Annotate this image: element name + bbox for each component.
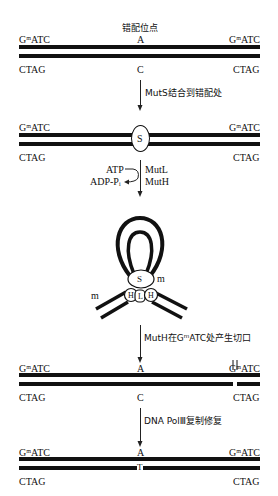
- dna-strand-bottom-right: [237, 382, 260, 386]
- stage4-bot-left: CTAG: [19, 392, 45, 403]
- step3-label: MutH在GᵐATC处产生切口: [144, 333, 251, 344]
- arrow-step4: [140, 408, 141, 443]
- loop-mutl-label: L: [138, 291, 143, 302]
- arrow-step3: [140, 325, 141, 359]
- step4-label: DNA PolⅢ复制修复: [144, 416, 222, 427]
- methyl-mark-right: m: [157, 273, 165, 284]
- stage5-bot-right: CTAG: [233, 476, 259, 487]
- dna-strand-top: [19, 373, 260, 377]
- dna-strand-bottom-left: [19, 382, 233, 386]
- stage5-bot-left: CTAG: [19, 476, 45, 487]
- stage4-bot-right: CTAG: [233, 392, 259, 403]
- methyl-mark-left: m: [91, 290, 99, 301]
- stage4-bot-mid: C: [137, 392, 144, 403]
- dna-strand-top: [19, 457, 260, 461]
- loop-muth1-label: H: [128, 290, 134, 301]
- repaired-base: T: [137, 463, 143, 472]
- diagram-graphics: [0, 0, 278, 496]
- loop-muth2-label: H: [148, 290, 154, 301]
- loop-muts-label: S: [137, 274, 142, 285]
